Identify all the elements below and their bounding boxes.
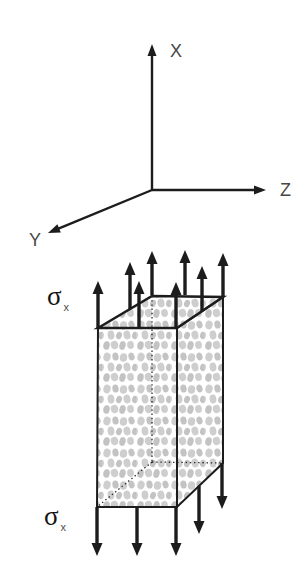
stress-arrow-down-3 [194, 486, 205, 534]
x-axis-arrow [148, 44, 157, 190]
sigma-bottom-subscript: x [61, 521, 67, 533]
sigma-top-symbol: σ [47, 281, 62, 311]
z-axis-label: Z [280, 181, 291, 199]
sigma-x-bottom-label: σx [44, 503, 66, 533]
y-axis-arrow [48, 190, 152, 233]
y-axis-label: Y [29, 231, 41, 249]
block-front-face [97, 328, 177, 507]
stress-arrow-up-7 [218, 253, 229, 297]
stress-arrow-down-4 [217, 463, 228, 509]
block-right-face [177, 297, 223, 507]
x-axis-label: X [170, 42, 182, 60]
sigma-x-top-label: σx [47, 283, 69, 313]
stress-arrow-down-1 [132, 507, 143, 556]
sigma-bottom-symbol: σ [44, 501, 59, 531]
stress-arrow-up-5 [180, 250, 191, 295]
stress-arrow-down-2 [171, 507, 182, 556]
stress-arrow-up-1 [125, 262, 136, 309]
stress-element-figure: X Z Y σx σx [0, 0, 308, 575]
stress-arrow-down-0 [92, 507, 103, 556]
stress-arrow-up-3 [147, 251, 158, 295]
z-axis-arrow [152, 186, 266, 195]
sigma-top-subscript: x [64, 301, 70, 313]
stress-arrow-up-0 [93, 281, 104, 328]
